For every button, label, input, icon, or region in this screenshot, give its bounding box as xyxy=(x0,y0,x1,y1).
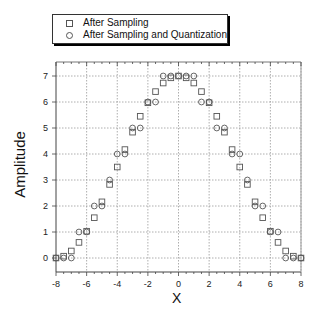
square-marker xyxy=(275,240,281,246)
x-tick-label: 0 xyxy=(176,279,181,289)
x-tick-label: -4 xyxy=(113,279,121,289)
y-tick-label: 1 xyxy=(43,227,48,237)
square-marker xyxy=(137,114,143,120)
square-marker xyxy=(76,240,82,246)
y-tick-label: 5 xyxy=(43,123,48,133)
y-tick-label: 7 xyxy=(43,71,48,81)
x-tick-label: 8 xyxy=(298,279,303,289)
x-tick-label: -6 xyxy=(83,279,91,289)
square-marker xyxy=(199,89,205,95)
y-tick-label: 0 xyxy=(43,253,48,263)
square-marker xyxy=(283,248,289,254)
square-marker xyxy=(260,215,266,221)
square-marker xyxy=(214,114,220,120)
square-marker xyxy=(69,248,75,254)
y-tick-label: 3 xyxy=(43,175,48,185)
y-axis-label: Amplitude xyxy=(11,131,28,198)
square-marker xyxy=(191,80,197,86)
x-tick-label: 2 xyxy=(207,279,212,289)
x-tick-label: 4 xyxy=(237,279,242,289)
square-marker xyxy=(153,89,159,95)
y-tick-label: 4 xyxy=(43,149,48,159)
x-tick-label: 6 xyxy=(268,279,273,289)
x-tick-label: -8 xyxy=(52,279,60,289)
square-marker xyxy=(160,80,166,86)
y-tick-label: 6 xyxy=(43,97,48,107)
scatter-plot: -8-6-4-20246801234567 xyxy=(0,0,317,316)
x-tick-label: -2 xyxy=(144,279,152,289)
square-marker xyxy=(91,215,97,221)
y-tick-label: 2 xyxy=(43,201,48,211)
x-axis-label: X xyxy=(172,290,181,306)
